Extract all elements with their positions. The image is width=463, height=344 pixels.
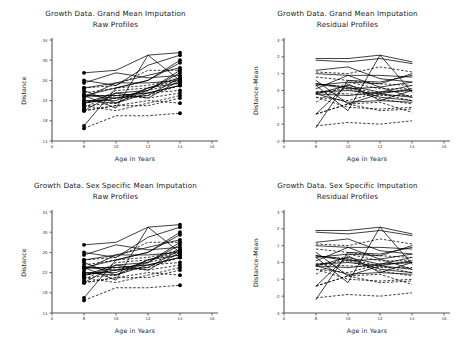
x-tick-label: 16 (442, 144, 447, 149)
y-tick-label: 14 (43, 139, 48, 144)
x-tick-label: 12 (378, 316, 383, 321)
series-line (316, 231, 412, 236)
data-point-marker (178, 230, 182, 234)
x-tick-label: 14 (178, 316, 183, 321)
data-point-marker (178, 111, 182, 115)
series-group (316, 227, 412, 299)
data-point-marker (178, 261, 182, 265)
data-point-marker (178, 273, 182, 277)
data-point-marker (178, 68, 182, 72)
series-line (316, 293, 412, 298)
data-point-marker (82, 71, 86, 75)
y-tick-label: -1 (276, 105, 280, 110)
x-axis-title: Age in Years (115, 155, 155, 163)
x-tick-label: 8 (315, 144, 318, 149)
y-tick-label: 22 (43, 98, 48, 103)
x-tick-label: 10 (346, 316, 351, 321)
data-point-marker (178, 256, 182, 260)
panel-top-right: Growth Data. Grand Mean Imputation Resid… (232, 0, 463, 172)
series-line (84, 225, 180, 245)
plot-area-top-left: 1418222630346810121416Age in YearsDistan… (0, 0, 231, 172)
y-tick-label: -1 (276, 277, 280, 282)
x-tick-label: 6 (51, 144, 54, 149)
x-tick-label: 8 (315, 316, 318, 321)
y-tick-label: 0 (277, 88, 280, 93)
y-tick-label: -3 (276, 311, 280, 316)
y-tick-label: 18 (43, 118, 48, 123)
x-tick-label: 12 (146, 316, 151, 321)
data-point-marker (178, 240, 182, 244)
data-point-marker (178, 96, 182, 100)
y-tick-label: 1 (277, 71, 280, 76)
x-tick-label: 10 (114, 144, 119, 149)
data-point-marker (178, 76, 182, 80)
y-tick-label: 26 (43, 250, 48, 255)
data-point-marker (82, 86, 86, 90)
y-tick-label: 1 (277, 243, 280, 248)
data-point-marker (82, 281, 86, 285)
y-tick-label: 34 (43, 38, 48, 43)
plot-area-top-right: -3-2-101236810121416Age in YearsDistance… (232, 0, 463, 172)
y-tick-label: 34 (43, 210, 48, 215)
data-point-marker (178, 84, 182, 88)
data-point-marker (178, 51, 182, 55)
series-group (84, 225, 180, 301)
data-point-marker (178, 58, 182, 62)
y-tick-label: 2 (277, 54, 280, 59)
series-group (316, 55, 412, 127)
x-tick-label: 14 (410, 316, 415, 321)
series-group (84, 53, 180, 129)
data-point-marker (178, 101, 182, 105)
y-tick-label: 30 (43, 58, 48, 63)
data-point-marker (82, 81, 86, 85)
series-line (84, 53, 180, 73)
panel-bottom-right: Growth Data. Sex Specific Imputation Res… (232, 172, 463, 344)
x-tick-label: 10 (114, 316, 119, 321)
panel-top-left: Growth Data. Grand Mean Imputation Raw P… (0, 0, 231, 172)
x-tick-label: 16 (442, 316, 447, 321)
x-tick-label: 6 (51, 316, 54, 321)
data-point-marker (82, 266, 86, 270)
y-tick-label: -2 (276, 122, 280, 127)
y-axis-title: Distance (20, 248, 27, 277)
data-point-marker (82, 126, 86, 130)
x-axis-title: Age in Years (347, 327, 387, 335)
data-point-marker (178, 89, 182, 93)
y-tick-label: 18 (43, 290, 48, 295)
plot-area-bottom-right: -3-2-101236810121416Age in YearsDistance… (232, 172, 463, 344)
series-line (84, 113, 180, 128)
data-point-marker (82, 101, 86, 105)
y-tick-label: 22 (43, 270, 48, 275)
x-tick-label: 10 (346, 144, 351, 149)
x-tick-label: 16 (210, 316, 215, 321)
y-tick-label: 3 (277, 210, 280, 215)
series-line (316, 104, 412, 114)
data-point-marker (82, 298, 86, 302)
data-point-marker (82, 273, 86, 277)
x-tick-label: 12 (146, 144, 151, 149)
data-point-marker (178, 223, 182, 227)
y-tick-label: 30 (43, 230, 48, 235)
x-tick-label: 8 (83, 316, 86, 321)
panel-bottom-left: Growth Data. Sex Specific Mean Imputatio… (0, 172, 231, 344)
x-tick-label: 14 (178, 144, 183, 149)
x-tick-label: 14 (410, 144, 415, 149)
x-tick-label: 6 (283, 316, 286, 321)
x-axis-title: Age in Years (347, 155, 387, 163)
y-tick-label: 3 (277, 38, 280, 43)
y-axis-title: Distance (20, 76, 27, 105)
series-line (316, 276, 412, 286)
y-axis-title: Distance-Mean (252, 66, 259, 115)
x-tick-label: 6 (283, 144, 286, 149)
plot-area-bottom-left: 1418222630346810121416Age in YearsDistan… (0, 172, 231, 344)
data-point-marker (178, 248, 182, 252)
x-tick-label: 12 (378, 144, 383, 149)
series-line (316, 121, 412, 126)
y-axis-title: Distance-Mean (252, 238, 259, 287)
data-point-marker (178, 268, 182, 272)
data-point-marker (82, 94, 86, 98)
x-tick-label: 8 (83, 144, 86, 149)
y-tick-label: 14 (43, 311, 48, 316)
series-line (316, 59, 412, 64)
series-line (84, 285, 180, 300)
